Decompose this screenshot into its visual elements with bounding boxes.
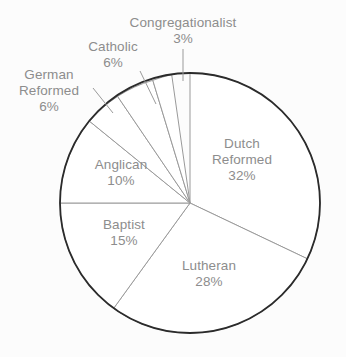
slice-label-catholic-name: Catholic xyxy=(68,39,158,55)
pie-slices xyxy=(60,73,320,333)
slice-label-german-reformed-name: German xyxy=(4,67,94,83)
slice-label-anglican-value: 10% xyxy=(76,173,166,189)
slice-label-german-reformed-name2: Reformed xyxy=(4,83,94,99)
slice-label-anglican-name: Anglican xyxy=(76,157,166,173)
slice-label-german-reformed-value: 6% xyxy=(4,99,94,115)
slice-label-lutheran-name: Lutheran xyxy=(163,258,255,274)
slice-label-baptist-value: 15% xyxy=(79,233,169,249)
pie-chart: Congregationalist 3% Catholic 6% German … xyxy=(0,0,346,357)
slice-label-dutch-reformed-value: 32% xyxy=(196,168,288,184)
slice-label-congregationalist-name: Congregationalist xyxy=(120,15,246,31)
slice-label-lutheran-value: 28% xyxy=(163,274,255,290)
slice-label-baptist: Baptist 15% xyxy=(79,217,169,249)
slice-label-dutch-reformed-name2: Reformed xyxy=(196,152,288,168)
slice-label-anglican: Anglican 10% xyxy=(76,157,166,189)
slice-label-dutch-reformed-name: Dutch xyxy=(196,136,288,152)
pie-chart-graphic xyxy=(0,0,346,357)
slice-label-german-reformed: German Reformed 6% xyxy=(4,67,94,115)
slice-label-dutch-reformed: Dutch Reformed 32% xyxy=(196,136,288,184)
slice-label-lutheran: Lutheran 28% xyxy=(163,258,255,290)
slice-label-baptist-name: Baptist xyxy=(79,217,169,233)
